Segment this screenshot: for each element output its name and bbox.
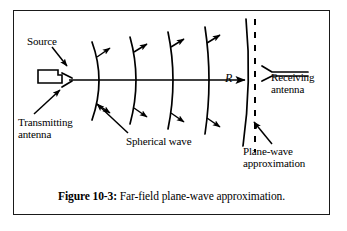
label-transmitting-antenna-line2: antenna [18,129,73,141]
source-leader-line [52,47,67,66]
figure-container: Source Transmitting antenna Spherical wa… [0,0,347,231]
label-plane-wave-line2: approximation [243,158,305,170]
plane-wave-leader-line [254,122,272,144]
figure-caption-text: Far-field plane-wave approximation. [117,190,285,202]
label-receiving-antenna-line1: Receiving [271,72,314,84]
transmitting-antenna-leader-line [34,90,60,114]
spherical-wavefront-5 [243,19,248,146]
label-plane-wave-line1: Plane-wave [243,146,305,158]
label-transmitting-antenna-line1: Transmitting [18,117,73,129]
label-source: Source [27,36,57,48]
label-plane-wave-approximation: Plane-wave approximation [243,146,305,169]
label-spherical-wave: Spherical wave [126,136,191,148]
label-receiving-antenna: Receiving antenna [271,72,314,95]
label-distance-r: R [225,73,232,85]
transmitting-antenna-symbol [38,70,72,87]
label-transmitting-antenna: Transmitting antenna [18,117,73,140]
figure-caption-prefix: Figure 10-3: [58,190,117,202]
figure-caption: Figure 10-3: Far-field plane-wave approx… [13,190,330,202]
label-receiving-antenna-line2: antenna [271,84,314,96]
spherical-wave-leader-line [97,104,128,133]
